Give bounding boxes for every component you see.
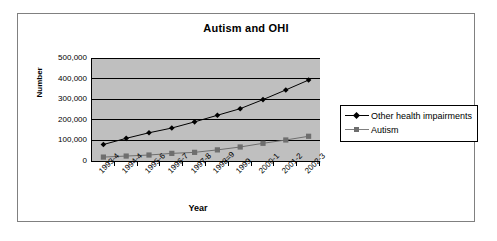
legend-label: Other health impairments	[369, 111, 472, 121]
chart-frame: Autism and OHI Number 0100,000200,000300…	[17, 13, 475, 222]
chart-title: Autism and OHI	[18, 22, 474, 34]
x-axis-title: Year	[78, 203, 318, 213]
plot-area	[91, 58, 320, 162]
legend-marker-diamond-icon	[345, 111, 369, 121]
legend-marker-square-icon	[345, 125, 369, 135]
y-tick-label: 100,000	[41, 136, 87, 144]
y-tick-label: 200,000	[41, 116, 87, 124]
legend-label: Autism	[369, 125, 399, 135]
y-tick-label: 400,000	[41, 75, 87, 83]
legend-item-autism[interactable]: Autism	[345, 123, 472, 137]
y-axis-tick-labels: 0100,000200,000300,000400,000500,000	[38, 58, 87, 161]
y-tick-label: 300,000	[41, 95, 87, 103]
legend-item-other-health-impairments[interactable]: Other health impairments	[345, 109, 472, 123]
x-axis-tick-labels: 1993-41994-41995-61996-71997-81998=91999…	[91, 162, 323, 206]
plot-svg	[92, 58, 320, 161]
chart-legend: Other health impairments Autism	[340, 105, 478, 142]
y-tick-label: 500,000	[41, 54, 87, 62]
y-tick-label: 0	[41, 157, 87, 165]
